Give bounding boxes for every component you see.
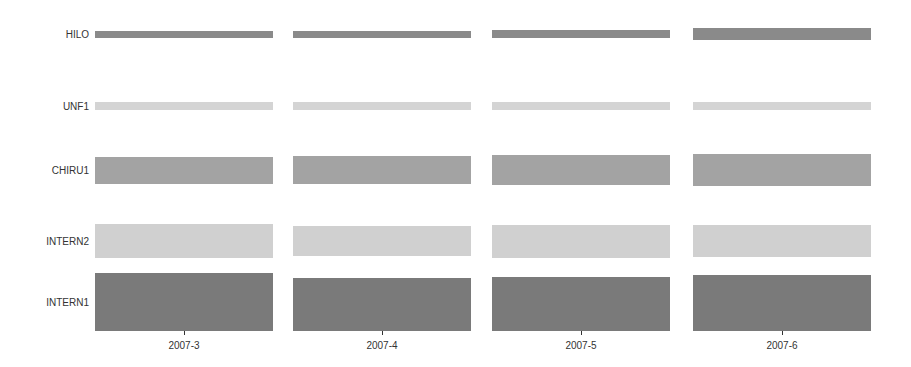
bar-intern1-2007-4 [293,278,471,331]
row-label-hilo: HILO [66,29,89,40]
bar-hilo-2007-6 [693,28,871,40]
bar-matrix-chart: HILO UNF1 CHIRU1 INTERN2 INTERN1 2007-32… [0,0,911,367]
bar-hilo-2007-4 [293,31,471,38]
bar-chiru1-2007-4 [293,156,471,184]
x-tick [782,331,783,335]
bar-unf1-2007-6 [693,102,871,110]
x-tick [581,331,582,335]
bar-intern1-2007-5 [492,277,670,331]
bar-chiru1-2007-6 [693,154,871,186]
bar-chiru1-2007-5 [492,155,670,185]
row-label-unf1: UNF1 [63,101,89,112]
bar-hilo-2007-5 [492,30,670,38]
x-tick [382,331,383,335]
bar-unf1-2007-3 [95,102,273,110]
x-tick-label: 2007-5 [565,340,596,351]
bar-intern1-2007-3 [95,273,273,331]
bar-hilo-2007-3 [95,31,273,38]
row-label-intern2: INTERN2 [46,236,89,247]
x-tick-label: 2007-4 [366,340,397,351]
bar-chiru1-2007-3 [95,157,273,184]
bar-unf1-2007-4 [293,102,471,110]
x-tick [184,331,185,335]
x-tick-label: 2007-3 [168,340,199,351]
bar-intern2-2007-4 [293,226,471,256]
bar-intern2-2007-6 [693,225,871,257]
bar-intern2-2007-3 [95,224,273,258]
row-label-chiru1: CHIRU1 [52,165,89,176]
bar-intern1-2007-6 [693,275,871,331]
bar-unf1-2007-5 [492,102,670,110]
x-tick-label: 2007-6 [766,340,797,351]
row-label-intern1: INTERN1 [46,297,89,308]
bar-intern2-2007-5 [492,225,670,258]
